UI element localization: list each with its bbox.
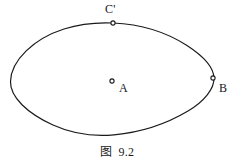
figure-caption: 图 9.2 [0,142,234,160]
point-marker-b [211,76,215,80]
figure-canvas [0,0,234,163]
point-label-a: A [119,82,128,94]
point-marker-c-prime [111,21,115,25]
point-marker-a [110,79,114,83]
point-label-c-prime: C' [105,3,116,15]
geometry-figure: C' A B 图 9.2 [0,0,234,163]
point-label-b: B [219,82,227,94]
